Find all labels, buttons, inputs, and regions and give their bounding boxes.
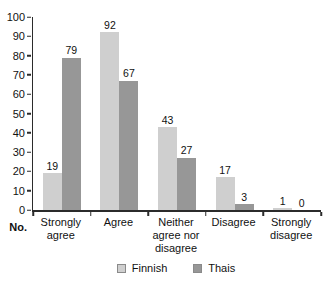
x-category-label: Strongly agree xyxy=(32,216,90,255)
bar-column-finnish: 1 xyxy=(273,17,292,210)
bar-value-label: 0 xyxy=(299,198,305,209)
bar-thais xyxy=(177,158,196,210)
y-tick-mark xyxy=(27,74,31,76)
bar-column-thais: 0 xyxy=(292,17,311,210)
y-tick-mark xyxy=(27,190,31,192)
legend-swatch-thais xyxy=(193,264,202,273)
legend-item-thais: Thais xyxy=(193,262,235,274)
x-axis-labels: Strongly agreeAgreeNeither agree nor dis… xyxy=(32,216,320,255)
legend-swatch-finnish xyxy=(117,264,126,273)
y-tick-mark xyxy=(27,36,31,38)
bar-finnish xyxy=(216,177,235,210)
bar-finnish xyxy=(158,127,177,210)
y-tick-mark xyxy=(27,113,31,115)
bar-value-label: 19 xyxy=(46,161,58,172)
x-category-label: Disagree xyxy=(205,216,263,255)
bar-value-label: 17 xyxy=(219,165,231,176)
bar-value-label: 43 xyxy=(162,115,174,126)
y-tick-mark xyxy=(27,171,31,173)
bar-value-label: 79 xyxy=(65,45,77,56)
y-tick-mark xyxy=(27,93,31,95)
y-axis-unit-label: No. xyxy=(0,221,27,233)
bar-column-finnish: 19 xyxy=(43,17,62,210)
bar-group: 9267 xyxy=(91,17,149,210)
bar-column-thais: 3 xyxy=(235,17,254,210)
bar-column-thais: 27 xyxy=(177,17,196,210)
bar-thais xyxy=(235,204,254,210)
x-tick-mark xyxy=(320,212,322,216)
y-tick-label: 40 xyxy=(13,127,25,138)
y-tick-mark xyxy=(27,151,31,153)
y-axis-labels: 0102030405060708090100 xyxy=(0,17,27,210)
bar-chart: 0102030405060708090100 19799267432717310… xyxy=(0,0,328,290)
bar-value-label: 92 xyxy=(104,20,116,31)
bar-thais xyxy=(62,58,81,210)
y-tick-label: 60 xyxy=(13,89,25,100)
legend-label: Finnish xyxy=(132,262,167,274)
legend: FinnishThais xyxy=(12,262,328,274)
bar-value-label: 1 xyxy=(280,196,286,207)
legend-label: Thais xyxy=(208,262,235,274)
x-category-label: Strongly disagree xyxy=(262,216,320,255)
y-tick-mark xyxy=(27,132,31,134)
x-category-label: Neither agree nor disagree xyxy=(147,216,205,255)
bar-column-finnish: 92 xyxy=(100,17,119,210)
y-tick-mark xyxy=(27,55,31,57)
y-tick-label: 30 xyxy=(13,147,25,158)
plot-area: 19799267432717310 xyxy=(32,17,321,212)
y-tick-label: 100 xyxy=(7,12,25,23)
y-tick-label: 80 xyxy=(13,50,25,61)
y-tick-label: 0 xyxy=(19,205,25,216)
bar-finnish xyxy=(100,32,119,210)
bar-finnish xyxy=(43,173,62,210)
y-tick-mark xyxy=(27,16,31,18)
y-tick-label: 50 xyxy=(13,108,25,119)
bar-group: 1979 xyxy=(33,17,91,210)
y-tick-label: 90 xyxy=(13,31,25,42)
y-tick-label: 20 xyxy=(13,166,25,177)
bar-value-label: 67 xyxy=(123,68,135,79)
legend-item-finnish: Finnish xyxy=(117,262,167,274)
bar-value-label: 3 xyxy=(241,192,247,203)
x-category-label: Agree xyxy=(90,216,148,255)
bar-finnish xyxy=(273,208,292,210)
y-tick-label: 70 xyxy=(13,69,25,80)
bar-group: 173 xyxy=(206,17,264,210)
y-tick-label: 10 xyxy=(13,185,25,196)
bar-column-finnish: 43 xyxy=(158,17,177,210)
bar-groups: 19799267432717310 xyxy=(33,17,321,210)
y-tick-mark xyxy=(27,209,31,211)
bar-group: 10 xyxy=(263,17,321,210)
bar-group: 4327 xyxy=(148,17,206,210)
bar-column-thais: 79 xyxy=(62,17,81,210)
bar-column-finnish: 17 xyxy=(216,17,235,210)
bar-value-label: 27 xyxy=(181,145,193,156)
bar-column-thais: 67 xyxy=(119,17,138,210)
bar-thais xyxy=(119,81,138,210)
